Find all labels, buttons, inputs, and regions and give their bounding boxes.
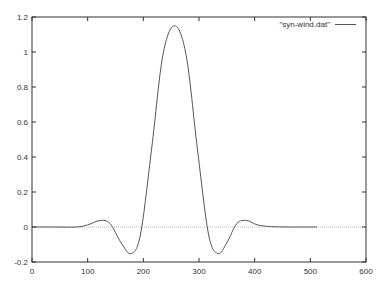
line-chart: 0100200300400500600 -0.200.20.40.60.811.… — [0, 0, 381, 286]
y-tick-label: 0.6 — [17, 118, 29, 127]
legend: "syn-wind.dat" — [279, 20, 356, 29]
series-line — [32, 26, 317, 254]
y-tick-label: 0.4 — [17, 153, 29, 162]
series-syn-wind — [32, 26, 317, 254]
y-axis: -0.200.20.40.60.811.2 — [14, 13, 366, 267]
x-axis: 0100200300400500600 — [30, 17, 373, 276]
y-tick-label: 0.2 — [17, 188, 29, 197]
x-tick-label: 400 — [248, 267, 262, 276]
x-tick-label: 300 — [192, 267, 206, 276]
x-tick-label: 600 — [359, 267, 373, 276]
x-tick-label: 100 — [81, 267, 95, 276]
y-tick-label: -0.2 — [14, 258, 28, 267]
y-tick-label: 1.2 — [17, 13, 29, 22]
y-tick-label: 1 — [24, 48, 29, 57]
y-tick-label: 0.8 — [17, 83, 29, 92]
legend-label: "syn-wind.dat" — [279, 20, 330, 29]
y-tick-label: 0 — [24, 223, 29, 232]
x-tick-label: 500 — [304, 267, 318, 276]
x-tick-label: 200 — [137, 267, 151, 276]
x-tick-label: 0 — [30, 267, 35, 276]
plot-frame — [32, 17, 366, 262]
